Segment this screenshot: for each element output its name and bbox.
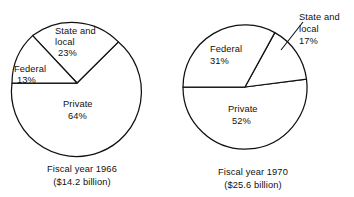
label-private-1970-pct: 52%: [232, 116, 251, 126]
label-federal-1966-name: Federal: [14, 64, 46, 74]
label-state-local-1966-line2: local: [55, 37, 75, 47]
label-private-1970-name: Private: [228, 104, 258, 114]
label-state-local-1970-line2: local: [299, 24, 319, 34]
label-federal-1966-pct: 13%: [17, 75, 36, 85]
label-state-local-1970-pct: 17%: [299, 36, 318, 46]
label-private-1966-pct: 64%: [68, 111, 87, 121]
figure-canvas: State and local 23% Federal 13% Private …: [0, 0, 354, 197]
caption-1966-line1: Fiscal year 1966: [47, 164, 117, 174]
caption-1970-line2: ($25.6 billion): [224, 180, 281, 190]
slice-private-1970: [183, 79, 307, 149]
caption-1970-line1: Fiscal year 1970: [218, 167, 288, 177]
pie-chart-1970: State and local 17% Federal 31% Private …: [183, 12, 340, 190]
label-state-local-1970-line1: State and: [299, 12, 340, 22]
label-state-local-1966-line1: State and: [55, 26, 96, 36]
label-federal-1970-name: Federal: [210, 44, 242, 54]
label-state-local-1966-pct: 23%: [58, 48, 77, 58]
pie-chart-1966: State and local 23% Federal 13% Private …: [11, 22, 141, 187]
label-private-1966-name: Private: [63, 99, 93, 109]
caption-1966-line2: ($14.2 billion): [53, 177, 110, 187]
pie-chart-figure: State and local 23% Federal 13% Private …: [0, 0, 354, 197]
label-federal-1970-pct: 31%: [210, 56, 229, 66]
